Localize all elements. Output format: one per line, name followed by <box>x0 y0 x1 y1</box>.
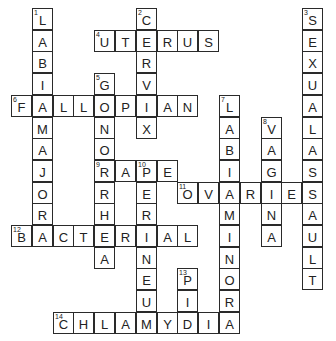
crossword-cell[interactable]: I <box>219 225 240 247</box>
crossword-cell[interactable]: V <box>198 182 219 204</box>
crossword-cell[interactable]: L <box>53 95 74 117</box>
crossword-cell[interactable]: U <box>177 30 198 52</box>
crossword-cell[interactable]: L <box>302 117 323 139</box>
crossword-cell[interactable]: R9 <box>94 160 115 182</box>
crossword-cell[interactable]: S3 <box>302 8 323 30</box>
crossword-cell[interactable]: L <box>177 225 198 247</box>
crossword-cell[interactable]: B <box>32 51 53 73</box>
crossword-cell[interactable]: P <box>115 95 136 117</box>
crossword-cell[interactable]: I <box>198 312 219 334</box>
cell-letter: U <box>142 295 151 310</box>
crossword-cell[interactable]: E <box>94 225 115 247</box>
crossword-cell[interactable]: E <box>281 182 302 204</box>
crossword-cell[interactable]: L <box>302 247 323 269</box>
crossword-cell[interactable]: L <box>73 95 94 117</box>
crossword-cell[interactable]: Y <box>157 312 178 334</box>
crossword-cell[interactable]: B12 <box>11 225 32 247</box>
crossword-cell[interactable]: A <box>157 95 178 117</box>
crossword-cell[interactable]: U <box>302 73 323 95</box>
crossword-cell[interactable]: N <box>219 247 240 269</box>
crossword-cell[interactable]: A <box>32 138 53 160</box>
crossword-cell[interactable]: M <box>32 117 53 139</box>
crossword-cell[interactable]: L <box>94 312 115 334</box>
crossword-cell[interactable]: X <box>302 51 323 73</box>
crossword-cell[interactable]: A <box>219 312 240 334</box>
crossword-cell[interactable]: O <box>219 268 240 290</box>
crossword-cell[interactable]: R <box>219 290 240 312</box>
crossword-cell[interactable]: I <box>136 95 157 117</box>
crossword-cell[interactable]: I <box>261 182 282 204</box>
crossword-cell[interactable]: V8 <box>261 117 282 139</box>
crossword-cell[interactable]: N <box>177 95 198 117</box>
crossword-cell[interactable]: A <box>261 225 282 247</box>
crossword-cell[interactable]: L1 <box>32 8 53 30</box>
cell-letter: I <box>228 230 232 245</box>
crossword-cell[interactable]: V <box>136 73 157 95</box>
crossword-cell[interactable]: U <box>302 225 323 247</box>
crossword-cell[interactable]: P10 <box>136 160 157 182</box>
crossword-cell[interactable]: R <box>136 51 157 73</box>
crossword-cell[interactable]: X <box>136 117 157 139</box>
crossword-cell[interactable]: M <box>219 203 240 225</box>
crossword-cell[interactable]: E <box>302 30 323 52</box>
crossword-cell[interactable]: A <box>115 312 136 334</box>
crossword-cell[interactable]: I <box>177 290 198 312</box>
crossword-cell[interactable]: E <box>157 160 178 182</box>
crossword-cell[interactable]: A <box>261 138 282 160</box>
crossword-cell[interactable]: L7 <box>219 95 240 117</box>
crossword-cell[interactable]: N <box>261 203 282 225</box>
crossword-cell[interactable]: C2 <box>136 8 157 30</box>
crossword-cell[interactable]: E <box>136 268 157 290</box>
crossword-cell[interactable]: A <box>94 247 115 269</box>
crossword-cell[interactable]: U <box>136 290 157 312</box>
crossword-cell[interactable]: I <box>32 73 53 95</box>
crossword-cell[interactable]: O <box>94 138 115 160</box>
crossword-cell[interactable]: I <box>219 160 240 182</box>
crossword-cell[interactable]: A <box>32 95 53 117</box>
crossword-cell[interactable]: P13 <box>177 268 198 290</box>
crossword-cell[interactable]: S <box>302 160 323 182</box>
crossword-cell[interactable]: H <box>73 312 94 334</box>
crossword-cell[interactable]: I <box>136 225 157 247</box>
crossword-cell[interactable]: A <box>302 138 323 160</box>
crossword-cell[interactable]: R <box>136 203 157 225</box>
crossword-cell[interactable]: A <box>115 160 136 182</box>
crossword-cell[interactable]: T <box>302 268 323 290</box>
crossword-cell[interactable]: B <box>219 138 240 160</box>
crossword-cell[interactable]: R <box>32 203 53 225</box>
crossword-cell[interactable]: A <box>32 225 53 247</box>
crossword-cell[interactable]: N <box>136 247 157 269</box>
crossword-cell[interactable]: A <box>302 95 323 117</box>
crossword-cell[interactable]: M <box>136 312 157 334</box>
clue-number: 9 <box>96 161 100 169</box>
crossword-cell[interactable]: O <box>94 95 115 117</box>
crossword-cell[interactable]: A <box>302 203 323 225</box>
crossword-cell[interactable]: S <box>302 182 323 204</box>
crossword-cell[interactable]: J <box>32 160 53 182</box>
crossword-cell[interactable]: R <box>115 225 136 247</box>
crossword-cell[interactable]: T <box>115 30 136 52</box>
crossword-cell[interactable]: D <box>177 312 198 334</box>
crossword-cell[interactable]: G <box>261 160 282 182</box>
crossword-cell[interactable]: A <box>32 30 53 52</box>
crossword-cell[interactable]: E <box>136 182 157 204</box>
crossword-cell[interactable]: O11 <box>177 182 198 204</box>
crossword-cell[interactable]: C14 <box>53 312 74 334</box>
crossword-cell[interactable]: E <box>136 30 157 52</box>
crossword-cell[interactable]: F6 <box>11 95 32 117</box>
crossword-cell[interactable]: R <box>157 30 178 52</box>
crossword-cell[interactable]: R <box>94 182 115 204</box>
crossword-cell[interactable]: C <box>53 225 74 247</box>
crossword-cell[interactable]: A <box>157 225 178 247</box>
crossword-cell[interactable]: N <box>94 117 115 139</box>
crossword-cell[interactable]: S <box>198 30 219 52</box>
crossword-cell[interactable]: A <box>219 117 240 139</box>
crossword-cell[interactable]: R <box>240 182 261 204</box>
crossword-cell[interactable]: U4 <box>94 30 115 52</box>
crossword-cell[interactable]: T <box>73 225 94 247</box>
crossword-cell[interactable]: H <box>94 203 115 225</box>
crossword-cell[interactable]: O <box>32 182 53 204</box>
cell-letter: A <box>225 317 234 332</box>
crossword-cell[interactable]: G5 <box>94 73 115 95</box>
crossword-cell[interactable]: A <box>219 182 240 204</box>
